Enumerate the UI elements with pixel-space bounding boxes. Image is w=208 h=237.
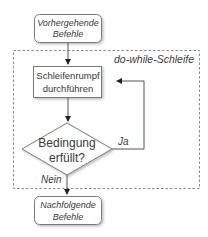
- condition-node-line1: Bedingung: [38, 136, 95, 150]
- flowchart-canvas: do-while-Schleife Vorhergehende Befehle …: [0, 0, 208, 237]
- body-node: Schleifenrumpf durchführen: [34, 67, 102, 98]
- body-node-line2: durchführen: [43, 83, 94, 94]
- end-node-line1: Nachfolgende: [40, 200, 96, 210]
- loop-frame-label: do-while-Schleife: [114, 53, 194, 65]
- no-label: Nein: [41, 174, 62, 185]
- start-node: Vorhergehende Befehle: [35, 15, 102, 43]
- end-node-line2: Befehle: [53, 212, 84, 222]
- condition-node-line2: erfüllt?: [49, 151, 85, 165]
- end-node: Nachfolgende Befehle: [35, 197, 102, 225]
- body-node-line1: Schleifenrumpf: [36, 70, 100, 81]
- start-node-line1: Vorhergehende: [37, 18, 99, 28]
- yes-label: Ja: [117, 136, 129, 147]
- condition-node: Bedingung erfüllt?: [22, 123, 112, 175]
- start-node-line2: Befehle: [53, 29, 84, 39]
